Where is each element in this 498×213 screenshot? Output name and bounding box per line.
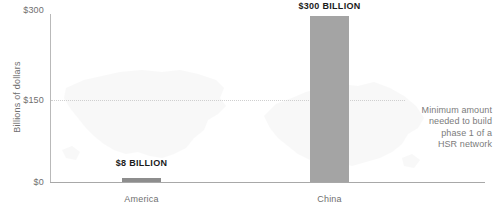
annotation-line-3: phase 1 of a <box>392 128 492 139</box>
annotation-line-2: needed to build <box>392 116 492 127</box>
bar-chart: Billions of dollars $300 $150 $0 $8 BILL… <box>0 0 498 213</box>
y-tick-label-0: $0 <box>0 177 44 188</box>
x-category-label-america: America <box>82 194 201 204</box>
y-tick-label-150: $150 <box>0 95 44 106</box>
x-category-label-china: China <box>270 194 389 204</box>
gridline-150 <box>51 100 405 102</box>
bar-value-label-america: $8 BILLION <box>82 158 201 168</box>
bar-china[interactable] <box>310 16 349 182</box>
annotation-line-4: HSR network <box>392 139 492 150</box>
minimum-amount-annotation: Minimum amount needed to build phase 1 o… <box>392 105 492 151</box>
bar-america[interactable] <box>122 178 161 182</box>
y-axis-line <box>50 14 51 183</box>
annotation-line-1: Minimum amount <box>392 105 492 116</box>
bar-value-label-china: $300 BILLION <box>270 1 389 11</box>
y-tick-label-300: $300 <box>0 5 44 16</box>
x-axis-baseline <box>50 182 485 183</box>
